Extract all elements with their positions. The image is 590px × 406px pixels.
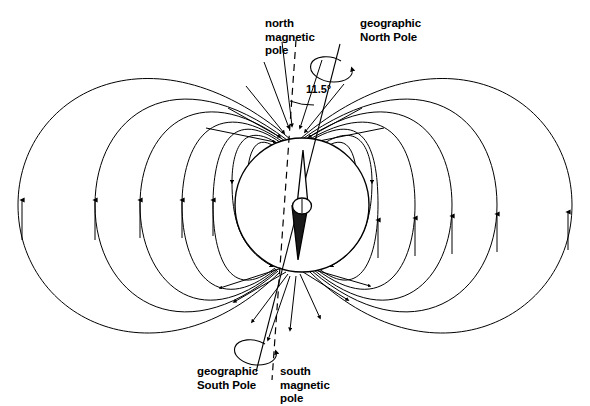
pole-spoke-s-4 [290, 276, 296, 330]
pole-spoke-n-2 [246, 86, 284, 133]
magnetic-field-diagram [0, 0, 590, 406]
label-tilt-angle: 11.5° [306, 83, 331, 95]
label-geographic-south-pole: geographic South Pole [197, 365, 258, 392]
label-geographic-north-pole: geographic North Pole [360, 17, 421, 44]
earth-spin-indicator-south [235, 340, 277, 365]
diagram-canvas: north magnetic pole geographic North Pol… [0, 0, 590, 406]
tilt-angle-arc [290, 101, 314, 105]
label-south-magnetic-pole: south magnetic pole [280, 365, 330, 406]
label-north-magnetic-pole: north magnetic pole [265, 17, 315, 58]
